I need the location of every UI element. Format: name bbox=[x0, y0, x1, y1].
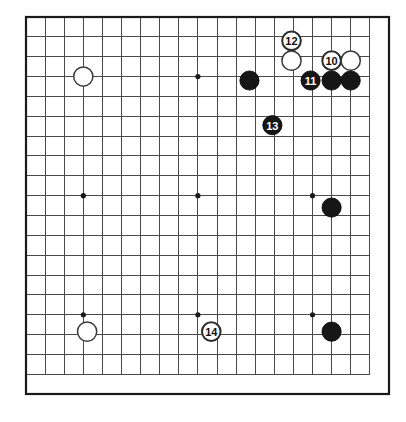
white-stone[interactable] bbox=[78, 322, 97, 341]
stone-b-right-2[interactable] bbox=[341, 71, 360, 90]
black-stone[interactable] bbox=[322, 71, 341, 90]
stone-b-right-1[interactable] bbox=[322, 71, 341, 90]
hoshi-upper-middle bbox=[195, 74, 200, 79]
hoshi-center bbox=[195, 193, 200, 198]
black-stone[interactable] bbox=[240, 71, 259, 90]
stone-w-lower-left[interactable] bbox=[78, 322, 97, 341]
move-number-label: 13 bbox=[266, 120, 278, 132]
stone-w-upper-right-lower[interactable] bbox=[282, 51, 301, 70]
hoshi-lower-right bbox=[310, 312, 315, 317]
stone-b-upper-right-area[interactable] bbox=[240, 71, 259, 90]
stone-b-move-11[interactable]: 11 bbox=[301, 71, 320, 90]
goban-svg[interactable]: 1210111314 bbox=[0, 0, 406, 422]
hoshi-lower-middle bbox=[195, 312, 200, 317]
stone-w-upper-right-corner[interactable] bbox=[341, 51, 360, 70]
stone-w-move-14[interactable]: 14 bbox=[202, 322, 221, 341]
move-number-label: 11 bbox=[305, 75, 317, 87]
hoshi-lower-left bbox=[81, 312, 86, 317]
move-number-label: 14 bbox=[205, 326, 218, 338]
stone-w-move-12[interactable]: 12 bbox=[282, 31, 301, 50]
stone-w-move-10[interactable]: 10 bbox=[322, 51, 341, 70]
hoshi-middle-left bbox=[81, 193, 86, 198]
hoshi-middle-right bbox=[310, 193, 315, 198]
white-stone[interactable] bbox=[341, 51, 360, 70]
stone-w-upper-left[interactable] bbox=[74, 67, 93, 86]
go-board-diagram: 1210111314 bbox=[0, 0, 406, 422]
white-stone[interactable] bbox=[74, 67, 93, 86]
black-stone[interactable] bbox=[322, 198, 341, 217]
white-stone[interactable] bbox=[282, 51, 301, 70]
black-stone[interactable] bbox=[322, 322, 341, 341]
stone-b-right-center[interactable] bbox=[322, 198, 341, 217]
move-number-label: 12 bbox=[285, 35, 297, 47]
move-number-label: 10 bbox=[325, 55, 337, 67]
stone-b-lower-right[interactable] bbox=[322, 322, 341, 341]
stone-b-move-13[interactable]: 13 bbox=[263, 116, 282, 135]
black-stone[interactable] bbox=[341, 71, 360, 90]
